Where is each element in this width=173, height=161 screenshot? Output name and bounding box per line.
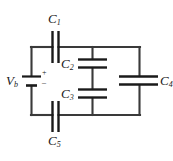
battery-plus-sign: +	[42, 69, 47, 77]
capacitor-c2-label-letter: C	[61, 56, 70, 71]
capacitor-c5-label: C5	[48, 134, 61, 147]
capacitor-c2-plates	[78, 60, 107, 68]
capacitor-c4-label-subscript: 4	[169, 80, 173, 89]
capacitor-c3-label: C3	[61, 87, 74, 100]
capacitor-c1-label: C1	[48, 12, 61, 25]
capacitor-c4-plates	[119, 77, 158, 85]
circuit-schematic-svg	[0, 0, 173, 161]
capacitor-c4-label: C4	[160, 74, 173, 87]
capacitor-c1-plates	[53, 31, 59, 63]
capacitor-c4-label-letter: C	[160, 73, 169, 88]
battery-minus-sign: –	[42, 79, 46, 87]
capacitor-c1-label-letter: C	[48, 11, 57, 26]
capacitor-c3-plates	[78, 90, 107, 98]
circuit-wires	[31, 47, 140, 115]
voltage-source-label-subscript: b	[14, 80, 18, 89]
capacitor-c3-label-subscript: 3	[70, 93, 74, 102]
capacitor-c2-label: C2	[61, 57, 74, 70]
capacitor-c5-label-letter: C	[48, 133, 57, 148]
capacitor-circuit-diagram: C1 C2 C3 C4 C5 Vb + –	[0, 0, 173, 161]
capacitor-c5-plates	[53, 101, 59, 132]
voltage-source-label-letter: V	[6, 73, 14, 88]
voltage-source-symbol	[22, 77, 41, 86]
voltage-source-label: Vb	[6, 74, 18, 87]
capacitor-c3-label-letter: C	[61, 86, 70, 101]
capacitor-c2-label-subscript: 2	[70, 63, 74, 72]
capacitor-c5-label-subscript: 5	[57, 140, 61, 149]
capacitor-c1-label-subscript: 1	[57, 18, 61, 27]
